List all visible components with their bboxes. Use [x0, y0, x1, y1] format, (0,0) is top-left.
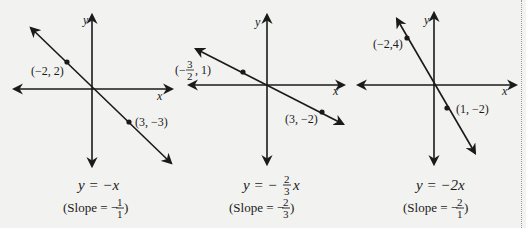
equation-numerator: 2 — [284, 173, 290, 185]
point-marker — [404, 35, 409, 40]
slope-text: (Slope = − — [229, 200, 284, 215]
point-label: (3, −2) — [285, 112, 318, 126]
slope-text: (Slope = − — [403, 200, 458, 215]
point-marker — [240, 69, 245, 74]
y-axis-label: y — [82, 13, 89, 27]
x-axis-label: x — [501, 84, 508, 98]
y-axis-label: y — [423, 13, 430, 27]
slope-close: ) — [124, 200, 128, 215]
point-label-numerator: 3 — [187, 58, 193, 70]
slope-text: (Slope = − — [63, 200, 118, 215]
point-label-denominator: 2 — [187, 70, 193, 82]
point-label: (−2, 2) — [31, 64, 64, 78]
x-axis-label: x — [156, 89, 163, 103]
y-axis-label: y — [254, 15, 261, 29]
point-marker — [319, 109, 324, 114]
point-label-prefix: (− — [175, 63, 186, 77]
slope-close: ) — [290, 200, 294, 215]
slope-denominator: 1 — [117, 208, 123, 220]
page-edge-divider — [521, 0, 522, 228]
equation-lhs: y = − — [241, 177, 277, 193]
slope-denominator: 1 — [457, 208, 463, 220]
equation-rhs: x — [292, 177, 300, 193]
slope-close: ) — [464, 200, 468, 215]
x-axis-label: x — [332, 84, 339, 98]
slope-numerator: 2 — [283, 196, 289, 208]
point-label: (3, −3) — [135, 115, 168, 129]
slope-diagram: y x (−2, 2) (3, −3) y = −x (Slope = − 1 … — [0, 0, 526, 228]
panel-1: y x (−2, 2) (3, −3) y = −x (Slope = − 1 … — [14, 13, 172, 220]
point-label-suffix: , 1) — [195, 63, 211, 77]
panel-3: y x (−2,4) (1, −2) y = −2x (Slope = − 2 … — [358, 13, 516, 220]
equation: y = −x — [76, 177, 119, 193]
slope-denominator: 3 — [283, 208, 289, 220]
equation: y = −2x — [414, 177, 465, 193]
slope-numerator: 2 — [457, 196, 463, 208]
slope-numerator: 1 — [117, 196, 123, 208]
panel-2: y x (− 3 2 , 1) (3, −2) y = − 2 3 x (Slo… — [175, 15, 344, 220]
point-marker — [64, 59, 69, 64]
point-label: (1, −2) — [456, 102, 489, 116]
point-marker — [444, 105, 449, 110]
point-label: (−2,4) — [373, 37, 403, 51]
graph-line — [31, 28, 171, 163]
point-marker — [126, 119, 131, 124]
